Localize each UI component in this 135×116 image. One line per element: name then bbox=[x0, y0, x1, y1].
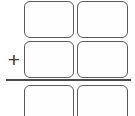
digit-cell-sum-tens[interactable] bbox=[24, 85, 74, 116]
digit-cell-addend1-tens[interactable] bbox=[24, 1, 74, 38]
column-addition-worksheet: + bbox=[0, 0, 135, 116]
plus-icon: + bbox=[5, 48, 23, 72]
horizontal-rule-icon bbox=[6, 79, 131, 81]
digit-cell-sum-ones[interactable] bbox=[77, 85, 128, 116]
digit-cell-addend2-tens[interactable] bbox=[24, 41, 74, 78]
digit-cell-addend1-ones[interactable] bbox=[77, 1, 128, 38]
digit-cell-addend2-ones[interactable] bbox=[77, 41, 128, 78]
